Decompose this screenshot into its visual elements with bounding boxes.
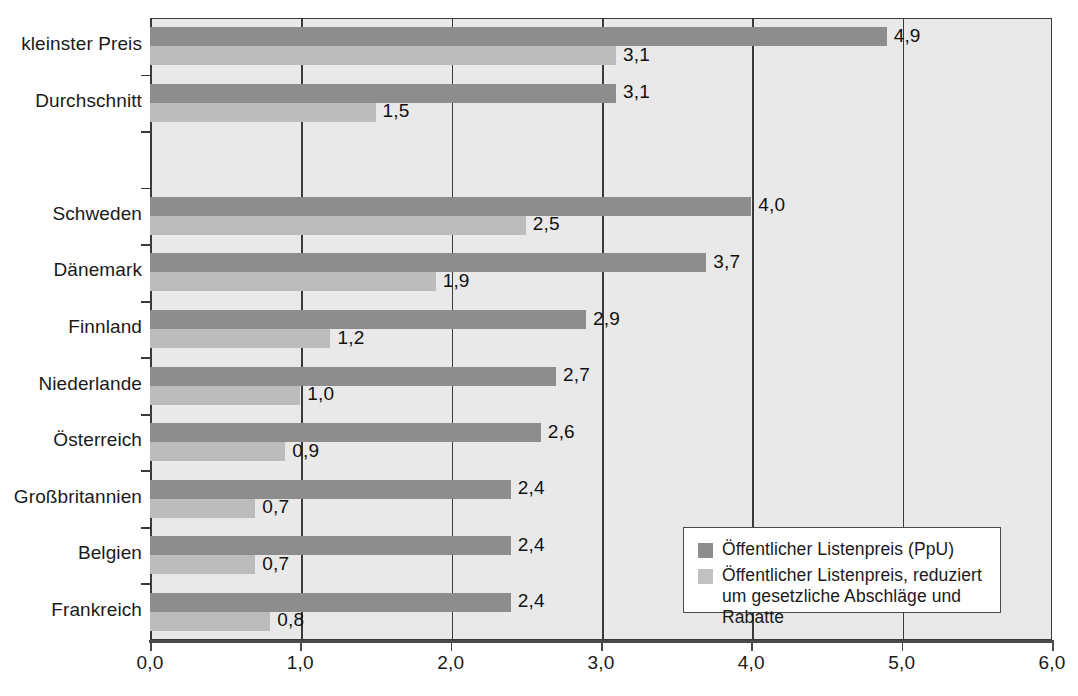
bar-value-label: 0,7 [262, 553, 289, 575]
bar [150, 386, 300, 405]
bar-value-label: 1,2 [337, 327, 364, 349]
bar-value-label: 3,1 [623, 44, 650, 66]
legend-entry-1: Öffentlicher Listenpreis, reduziert um g… [698, 565, 1000, 628]
bar-value-label: 2,7 [563, 364, 590, 386]
legend-entry-0: Öffentlicher Listenpreis (PpU) [698, 539, 1000, 560]
y-axis-tick [141, 583, 151, 585]
bar [150, 103, 376, 122]
x-axis-tick-label: 4,0 [738, 652, 765, 674]
bar-value-label: 1,5 [383, 100, 410, 122]
bar-value-label: 1,9 [443, 270, 470, 292]
category-label: Finnland [68, 316, 142, 338]
y-axis-tick [141, 188, 151, 190]
y-axis-tick [141, 414, 151, 416]
x-axis-tick-label: 0,0 [136, 652, 163, 674]
x-axis-tick [451, 640, 453, 651]
bar [150, 442, 285, 461]
bar [150, 612, 270, 631]
x-axis-tick [1052, 640, 1054, 651]
category-label: Österreich [53, 429, 142, 451]
bar-value-label: 0,8 [277, 609, 304, 631]
legend-entry-label: Öffentlicher Listenpreis (PpU) [722, 539, 954, 560]
x-axis-tick-label: 5,0 [888, 652, 915, 674]
bar [150, 27, 887, 46]
x-axis-tick-label: 1,0 [287, 652, 314, 674]
y-axis-tick [141, 527, 151, 529]
bar-value-label: 2,6 [548, 421, 575, 443]
y-axis-tick [141, 131, 151, 133]
bar [150, 253, 706, 272]
y-axis-tick [141, 75, 151, 77]
bar [150, 499, 255, 518]
bar [150, 480, 511, 499]
x-axis-tick [601, 640, 603, 651]
bar [150, 423, 541, 442]
x-axis-tick-label: 3,0 [587, 652, 614, 674]
x-axis-tick [902, 640, 904, 651]
category-label: Schweden [52, 203, 142, 225]
legend-swatch-icon [698, 543, 713, 558]
legend-entry-label: Öffentlicher Listenpreis, reduziert um g… [722, 565, 1000, 628]
y-axis-tick [141, 357, 151, 359]
category-label: Niederlande [38, 373, 142, 395]
bar [150, 310, 586, 329]
category-label: kleinster Preis [21, 33, 142, 55]
category-label: Großbritannien [14, 486, 142, 508]
bar-value-label: 2,9 [593, 308, 620, 330]
bar [150, 555, 255, 574]
bar-value-label: 2,4 [518, 590, 545, 612]
category-label: Dänemark [54, 259, 142, 281]
x-axis-tick [150, 640, 152, 651]
bar [150, 593, 511, 612]
x-axis-tick-label: 2,0 [437, 652, 464, 674]
bar-value-label: 3,7 [713, 251, 740, 273]
category-label: Belgien [78, 542, 142, 564]
bar [150, 536, 511, 555]
bar [150, 46, 616, 65]
bar-value-label: 4,0 [758, 194, 785, 216]
x-axis-tick [300, 640, 302, 651]
bar [150, 329, 330, 348]
bar-value-label: 0,7 [262, 496, 289, 518]
bar-value-label: 2,4 [518, 477, 545, 499]
bar [150, 216, 526, 235]
y-axis-tick [141, 244, 151, 246]
bar [150, 272, 436, 291]
bar-value-label: 2,5 [533, 213, 560, 235]
bar-value-label: 1,0 [307, 383, 334, 405]
category-label: Durchschnitt [35, 90, 142, 112]
bar-value-label: 0,9 [292, 440, 319, 462]
legend: Öffentlicher Listenpreis (PpU) Öffentlic… [683, 527, 1001, 613]
y-axis-tick [141, 301, 151, 303]
y-axis-tick [141, 470, 151, 472]
category-label: Frankreich [51, 599, 142, 621]
bar-chart: kleinster PreisDurchschnittSchwedenDänem… [0, 0, 1078, 696]
bar [150, 367, 556, 386]
legend-swatch-icon [698, 569, 713, 584]
bar [150, 197, 751, 216]
bar-value-label: 3,1 [623, 81, 650, 103]
x-axis-tick [751, 640, 753, 651]
bar-value-label: 4,9 [894, 25, 921, 47]
bar-value-label: 2,4 [518, 534, 545, 556]
x-axis-tick-label: 6,0 [1038, 652, 1065, 674]
